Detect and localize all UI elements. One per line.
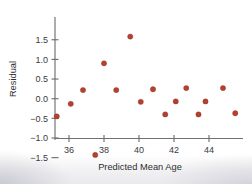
data-point <box>184 85 189 90</box>
data-point <box>163 112 168 117</box>
y-tick-label: 0.0 <box>35 94 48 104</box>
data-point <box>220 85 225 90</box>
y-tick-label: −0.5 <box>30 114 48 124</box>
x-tick-label: 38 <box>99 145 109 155</box>
data-point <box>173 99 178 104</box>
y-tick-label: 0.5 <box>35 74 48 84</box>
x-tick-label: 42 <box>169 145 179 155</box>
data-point <box>203 99 208 104</box>
data-point <box>150 87 155 92</box>
y-tick-label: −1.5 <box>30 153 48 163</box>
data-point <box>93 152 98 157</box>
data-point <box>196 112 201 117</box>
y-axis-title: Residual <box>8 61 18 97</box>
data-point <box>114 87 119 92</box>
y-tick-label: 1.5 <box>35 35 48 45</box>
residual-scatter-figure: −1.5−1.0−0.50.00.51.01.5 3638404244 Resi… <box>0 0 252 184</box>
x-tick-label: 40 <box>134 145 144 155</box>
scatter-plot: −1.5−1.0−0.50.00.51.01.5 3638404244 Resi… <box>0 0 252 184</box>
data-point <box>68 101 73 106</box>
x-tick-label: 36 <box>64 145 74 155</box>
data-point <box>138 99 143 104</box>
x-axis-title: Predicted Mean Age <box>98 162 182 172</box>
data-point <box>80 87 85 92</box>
y-tick-label: 1.0 <box>35 55 48 65</box>
data-point <box>101 61 106 66</box>
x-axis: 3638404244 <box>55 135 243 155</box>
y-axis: −1.5−1.0−0.50.00.51.01.5 <box>30 17 58 163</box>
y-tick-label: −1.0 <box>30 133 48 143</box>
data-point <box>233 111 238 116</box>
x-tick-label: 44 <box>204 145 214 155</box>
y-axis-ticks: −1.5−1.0−0.50.00.51.01.5 <box>30 35 58 163</box>
data-point <box>128 34 133 39</box>
data-point <box>54 114 59 119</box>
